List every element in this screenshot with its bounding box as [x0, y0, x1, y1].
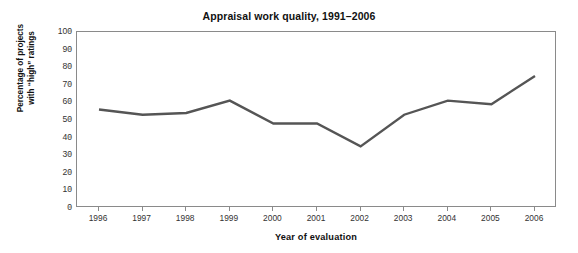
y-tick-mark: [68, 31, 72, 32]
x-tick-mark: [403, 207, 404, 211]
x-tick-mark: [142, 207, 143, 211]
x-tick-label: 1997: [122, 213, 162, 223]
x-tick-label: 1998: [165, 213, 205, 223]
x-tick-mark: [447, 207, 448, 211]
x-tick-label: 2001: [296, 213, 336, 223]
y-tick-label: 40: [38, 132, 72, 142]
y-axis-ticks: 0102030405060708090100: [32, 31, 72, 207]
x-axis-ticks: 1996199719981999200020012002200320042005…: [76, 207, 556, 229]
y-tick-label: 100: [38, 26, 72, 36]
x-tick-label: 2002: [340, 213, 380, 223]
x-tick-mark: [229, 207, 230, 211]
y-tick-mark: [68, 207, 72, 208]
x-tick-label: 2004: [427, 213, 467, 223]
y-tick-mark: [68, 189, 72, 190]
chart-title: Appraisal work quality, 1991–2006: [0, 10, 578, 22]
y-tick-label: 80: [38, 61, 72, 71]
y-tick-mark: [68, 66, 72, 67]
y-tick-mark: [68, 83, 72, 84]
data-line: [99, 76, 535, 146]
y-tick-label: 60: [38, 96, 72, 106]
y-tick-mark: [68, 154, 72, 155]
x-tick-mark: [490, 207, 491, 211]
y-tick-mark: [68, 171, 72, 172]
x-tick-label: 2005: [470, 213, 510, 223]
y-tick-label: 20: [38, 167, 72, 177]
x-tick-label: 1999: [209, 213, 249, 223]
y-tick-mark: [68, 119, 72, 120]
x-tick-mark: [316, 207, 317, 211]
x-axis-title: Year of evaluation: [76, 232, 556, 242]
x-tick-mark: [360, 207, 361, 211]
x-tick-mark: [272, 207, 273, 211]
x-tick-label: 2006: [514, 213, 554, 223]
y-tick-label: 10: [38, 184, 72, 194]
y-tick-mark: [68, 101, 72, 102]
x-tick-label: 2003: [383, 213, 423, 223]
x-tick-mark: [534, 207, 535, 211]
y-tick-label: 30: [38, 149, 72, 159]
y-tick-mark: [68, 136, 72, 137]
x-tick-mark: [98, 207, 99, 211]
y-tick-mark: [68, 48, 72, 49]
y-axis-title-line-1: Percentage of projects: [15, 0, 26, 148]
chart-figure: Appraisal work quality, 1991–2006 Percen…: [0, 0, 578, 253]
x-tick-label: 1996: [78, 213, 118, 223]
y-tick-label: 70: [38, 79, 72, 89]
line-series-svg: [77, 32, 557, 208]
x-tick-label: 2000: [252, 213, 292, 223]
y-tick-label: 50: [38, 114, 72, 124]
x-tick-mark: [185, 207, 186, 211]
y-tick-label: 90: [38, 44, 72, 54]
plot-area: [76, 31, 556, 207]
y-tick-label: 0: [38, 202, 72, 212]
